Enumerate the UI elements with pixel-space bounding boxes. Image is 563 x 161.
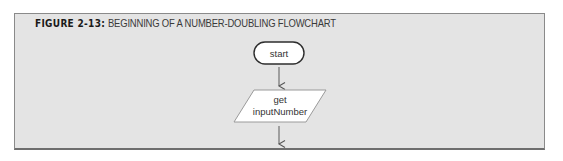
input-line-1: get [273,94,287,105]
flowchart: start get inputNumber [0,0,563,161]
input-line-2: inputNumber [253,106,307,117]
start-terminal-label: start [270,48,289,59]
input-parallelogram: get inputNumber [234,90,326,122]
start-terminal: start [254,42,304,64]
